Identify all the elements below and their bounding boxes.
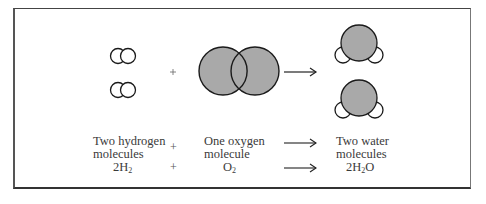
water-label: Two water molecules (336, 135, 382, 161)
hydrogen-formula-subscript: 2 (128, 166, 132, 175)
hydrogen-molecule-icon (111, 83, 136, 98)
oxygen-formula-base: O (223, 160, 232, 174)
oxygen-label: One oxygen molecule (204, 135, 265, 161)
hydrogen-formula-base: 2H (113, 160, 128, 174)
water-molecule-icon (335, 80, 383, 118)
plus-sign: + (170, 160, 177, 175)
oxygen-formula-subscript: 2 (232, 166, 236, 175)
oxygen-molecule-icon (199, 47, 279, 95)
hydrogen-molecule-icon (111, 49, 136, 64)
arrow-icon (284, 68, 316, 76)
arrow-icon (284, 164, 316, 172)
water-molecule-icon (335, 25, 383, 63)
arrow-icon (284, 139, 316, 147)
hydrogen-label: Two hydrogen molecules (93, 135, 165, 161)
plus-icon (170, 69, 176, 75)
reaction-illustration (0, 0, 486, 204)
oxygen-formula: O2 (223, 160, 236, 175)
water-formula-base: 2H (346, 160, 361, 174)
hydrogen-formula: 2H2 (113, 160, 132, 175)
water-formula-suffix: O (365, 160, 374, 174)
water-formula: 2H2O (346, 160, 374, 175)
plus-sign: + (170, 140, 177, 155)
